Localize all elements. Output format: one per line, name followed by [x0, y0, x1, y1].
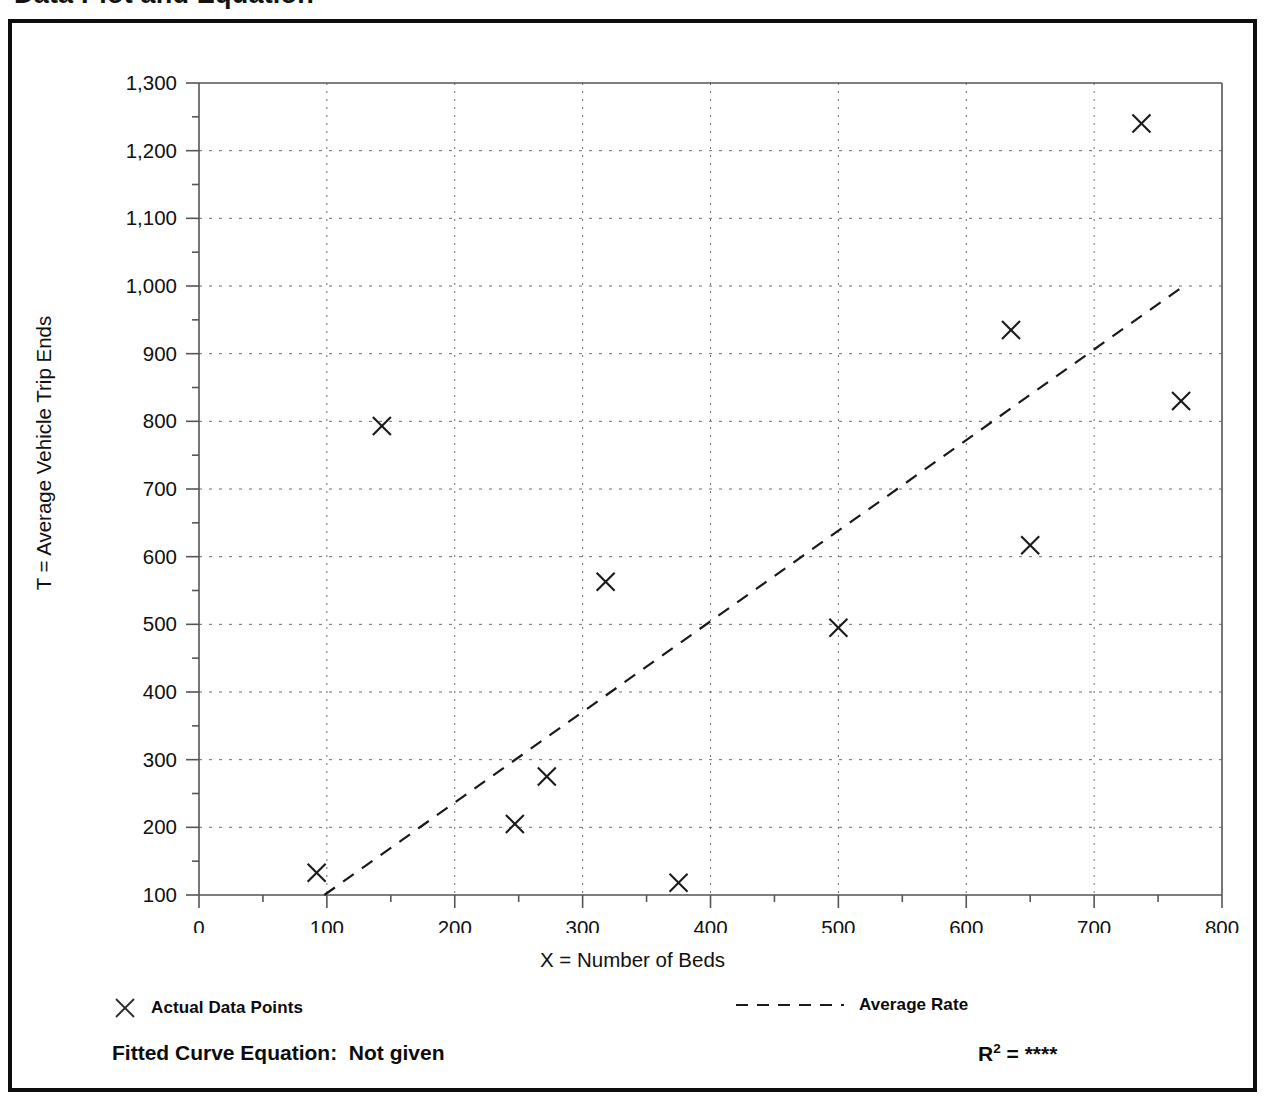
dashed-line-icon	[734, 996, 846, 1014]
y-tick-label: 300	[143, 748, 177, 771]
r-squared-value: ****	[1025, 1042, 1058, 1065]
figure-frame: 0100200300400500600700800100200300400500…	[8, 19, 1257, 1092]
x-tick-label: 0	[193, 916, 204, 933]
r-squared-equals: =	[1001, 1042, 1025, 1065]
y-tick-label: 500	[143, 612, 177, 635]
page-title-strip: Data Plot and Equation	[0, 0, 1265, 18]
data-point-marker	[506, 815, 524, 833]
scatter-plot: 0100200300400500600700800100200300400500…	[12, 23, 1253, 933]
equation-row: Fitted Curve Equation: Not given R2 = **…	[12, 1041, 1253, 1087]
y-axis-title: T = Average Vehicle Trip Ends	[32, 253, 56, 653]
x-tick-label: 100	[310, 916, 344, 933]
tick-labels: 0100200300400500600700800100200300400500…	[126, 71, 1239, 933]
data-point-marker	[670, 874, 688, 892]
fitted-curve-equation: Fitted Curve Equation: Not given	[112, 1041, 445, 1065]
chart-legend: Actual Data Points Average Rate	[12, 995, 1253, 1031]
trend-line-average-rate	[324, 286, 1183, 895]
data-point-marker	[1172, 392, 1190, 410]
data-point-marker	[1021, 536, 1039, 554]
y-tick-label: 1,200	[126, 139, 177, 162]
x-tick-label: 700	[1077, 916, 1111, 933]
fitted-curve-label: Fitted Curve Equation:	[112, 1041, 337, 1064]
x-axis-title: X = Number of Beds	[12, 948, 1253, 972]
legend-item-actual-data-points: Actual Data Points	[112, 995, 303, 1021]
legend-label-actual-data-points: Actual Data Points	[151, 998, 303, 1018]
y-tick-label: 1,000	[126, 274, 177, 297]
data-point-marker	[829, 619, 847, 637]
axis-ticks	[186, 83, 1222, 908]
r-squared-block: R2 = ****	[978, 1041, 1057, 1066]
y-tick-label: 400	[143, 680, 177, 703]
y-tick-label: 700	[143, 477, 177, 500]
legend-label-average-rate: Average Rate	[859, 995, 968, 1015]
data-point-marker	[538, 768, 556, 786]
fitted-curve-value: Not given	[349, 1041, 445, 1064]
grid-lines	[199, 83, 1222, 895]
chart-area: 0100200300400500600700800100200300400500…	[12, 23, 1253, 1088]
data-point-marker	[1132, 115, 1150, 133]
data-point-marker	[1002, 321, 1020, 339]
y-tick-label: 1,300	[126, 71, 177, 94]
y-tick-label: 200	[143, 815, 177, 838]
page-title: Data Plot and Equation	[14, 0, 314, 10]
y-tick-label: 900	[143, 342, 177, 365]
data-point-marker	[308, 864, 326, 882]
x-tick-label: 500	[821, 916, 855, 933]
x-tick-label: 800	[1205, 916, 1239, 933]
y-tick-label: 1,100	[126, 206, 177, 229]
x-tick-label: 300	[566, 916, 600, 933]
r-squared-exponent: 2	[993, 1041, 1001, 1056]
x-tick-label: 400	[693, 916, 727, 933]
y-tick-label: 100	[143, 883, 177, 906]
r-squared-label: R	[978, 1042, 993, 1065]
legend-item-average-rate: Average Rate	[734, 995, 968, 1015]
data-markers	[308, 115, 1190, 892]
x-tick-label: 200	[438, 916, 472, 933]
x-marker-icon	[112, 995, 138, 1021]
trend-line	[324, 286, 1183, 895]
y-tick-label: 800	[143, 409, 177, 432]
data-point-marker	[597, 573, 615, 591]
x-tick-label: 600	[949, 916, 983, 933]
data-point-marker	[373, 417, 391, 435]
y-tick-label: 600	[143, 545, 177, 568]
